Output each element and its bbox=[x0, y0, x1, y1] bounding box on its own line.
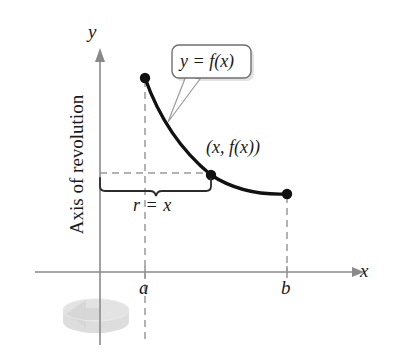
sample-point-label: (x, f(x)) bbox=[206, 138, 260, 156]
curve-points bbox=[140, 73, 292, 199]
axis-of-revolution-label: Axis of revolution bbox=[67, 75, 86, 255]
shell-method-figure: y x a b r = x (x, f(x)) y = f(x) Axis of… bbox=[0, 0, 397, 358]
dashed-guides bbox=[100, 80, 287, 340]
tick-label-a: a bbox=[139, 278, 149, 297]
callout-tail bbox=[168, 76, 200, 122]
rotation-arrow-icon bbox=[63, 299, 129, 333]
callout-label: y = f(x) bbox=[180, 52, 234, 70]
point-left-endpoint bbox=[140, 73, 150, 83]
tick-label-b: b bbox=[281, 278, 291, 297]
radius-brace bbox=[100, 178, 211, 196]
point-right-endpoint bbox=[282, 189, 292, 199]
x-axis-label: x bbox=[360, 261, 368, 280]
radius-label: r = x bbox=[133, 196, 172, 214]
y-axis-label: y bbox=[88, 22, 96, 41]
x-axis bbox=[35, 267, 364, 277]
